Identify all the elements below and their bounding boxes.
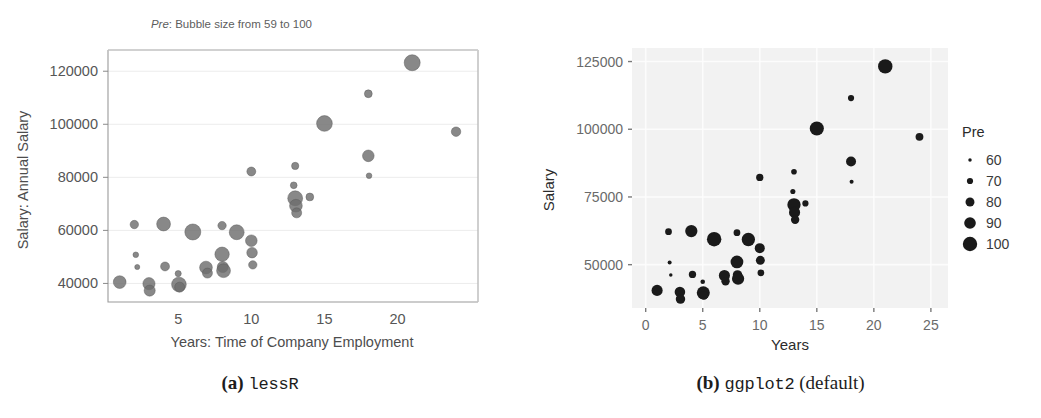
data-point xyxy=(721,277,729,285)
data-point xyxy=(802,200,808,206)
legend-label: 70 xyxy=(986,173,1002,189)
data-point xyxy=(185,224,201,240)
y-tick-label: 40000 xyxy=(58,275,98,291)
data-point xyxy=(451,127,460,136)
data-point xyxy=(144,285,155,296)
y-tick-label: 60000 xyxy=(58,222,98,238)
legend-items: 60708090100 xyxy=(963,152,1010,252)
y-tick-label: 120000 xyxy=(50,63,98,79)
data-point xyxy=(306,193,314,201)
legend-swatch xyxy=(967,178,973,184)
data-point xyxy=(317,116,333,132)
data-point xyxy=(756,256,765,265)
data-point xyxy=(731,256,744,269)
data-point xyxy=(364,90,372,98)
scatter-plot-ggplot2: 50000750001000001250000510152025 Years S… xyxy=(520,0,1041,368)
data-point xyxy=(810,121,824,135)
panel-lessr: Pre: Bubble size from 59 to 100 40000600… xyxy=(0,0,520,418)
data-point xyxy=(366,173,372,179)
data-point xyxy=(700,279,705,284)
data-point xyxy=(135,264,140,269)
legend-label: 60 xyxy=(986,152,1002,168)
x-tick-label: 25 xyxy=(923,317,939,333)
x-tick-label: 5 xyxy=(699,317,707,333)
data-point xyxy=(130,220,138,228)
data-point xyxy=(161,262,170,271)
x-axis-title: Years: Time of Company Employment xyxy=(171,334,414,350)
subtitle-rest: : Bubble size from 59 to 100 xyxy=(169,18,312,30)
data-point xyxy=(669,273,672,276)
y-tick-label: 80000 xyxy=(58,169,98,185)
data-point xyxy=(363,150,375,162)
legend-label: 80 xyxy=(986,194,1002,210)
x-tick-label: 15 xyxy=(809,317,825,333)
data-point xyxy=(249,261,257,269)
data-point xyxy=(247,247,258,258)
data-point xyxy=(758,269,765,276)
data-point xyxy=(668,260,672,264)
data-point xyxy=(791,216,799,224)
data-point xyxy=(700,291,708,299)
data-point xyxy=(404,55,420,71)
axis-ticks-lessr xyxy=(103,71,108,283)
x-tick-label: 15 xyxy=(316,311,332,327)
data-point xyxy=(175,282,185,292)
data-point xyxy=(175,271,181,277)
data-point xyxy=(685,225,697,237)
data-point xyxy=(652,285,663,296)
data-point xyxy=(292,162,299,169)
data-point xyxy=(229,225,244,240)
x-axis-title: Years xyxy=(771,336,809,353)
panel-ggplot2: 50000750001000001250000510152025 Years S… xyxy=(520,0,1041,418)
data-point xyxy=(755,243,765,253)
data-point xyxy=(742,233,755,246)
data-point xyxy=(247,167,256,176)
subtitle-emphasis: Pre xyxy=(151,18,169,30)
data-point xyxy=(790,189,795,194)
y-axis-title: Salary xyxy=(540,168,557,211)
caption-suffix-b: (default) xyxy=(799,372,864,393)
data-point xyxy=(878,59,892,73)
caption-label-b: (b) xyxy=(696,372,719,393)
data-point xyxy=(791,169,797,175)
x-tick-label: 5 xyxy=(174,311,182,327)
caption-ggplot2: (b) ggplot2 (default) xyxy=(520,372,1041,394)
data-point xyxy=(756,174,763,181)
data-point xyxy=(676,294,685,303)
size-legend: Pre 60708090100 xyxy=(962,124,1010,252)
legend-swatch xyxy=(966,198,975,207)
y-tick-label: 125000 xyxy=(576,54,623,70)
data-point xyxy=(689,271,696,278)
data-point xyxy=(246,235,258,247)
x-tick-label: 20 xyxy=(389,311,405,327)
x-tick-label: 10 xyxy=(243,311,259,327)
data-point xyxy=(202,268,212,278)
legend-swatch xyxy=(968,158,971,161)
figure-root: Pre: Bubble size from 59 to 100 40000600… xyxy=(0,0,1041,418)
data-point xyxy=(850,180,854,184)
y-tick-label: 75000 xyxy=(584,189,623,205)
legend-title: Pre xyxy=(962,124,985,140)
data-point xyxy=(916,133,924,141)
caption-name-b: ggplot2 xyxy=(724,375,794,394)
data-point xyxy=(133,252,139,258)
x-tick-label: 10 xyxy=(752,317,768,333)
caption-label-a: (a) xyxy=(222,372,244,393)
caption-name-a: lessR xyxy=(248,375,298,394)
caption-lessr: (a) lessR xyxy=(0,372,520,394)
x-tick-label: 20 xyxy=(866,317,882,333)
legend-label: 90 xyxy=(986,215,1002,231)
legend-label: 100 xyxy=(986,236,1010,252)
data-point xyxy=(707,232,721,246)
data-points-lessr xyxy=(113,55,460,296)
data-point xyxy=(665,228,672,235)
data-point xyxy=(846,156,856,166)
y-tick-label: 50000 xyxy=(584,257,623,273)
data-point xyxy=(734,229,741,236)
legend-swatch xyxy=(963,237,977,251)
data-point xyxy=(215,247,229,261)
legend-swatch xyxy=(964,217,976,229)
data-point xyxy=(113,276,126,289)
data-point xyxy=(732,273,744,285)
data-point xyxy=(217,264,231,278)
